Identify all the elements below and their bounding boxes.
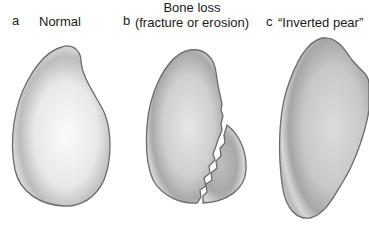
glenoid-inverted-pear-shape — [280, 38, 369, 218]
glenoid-normal-shape — [13, 46, 110, 206]
glenoid-diagram — [0, 0, 369, 237]
